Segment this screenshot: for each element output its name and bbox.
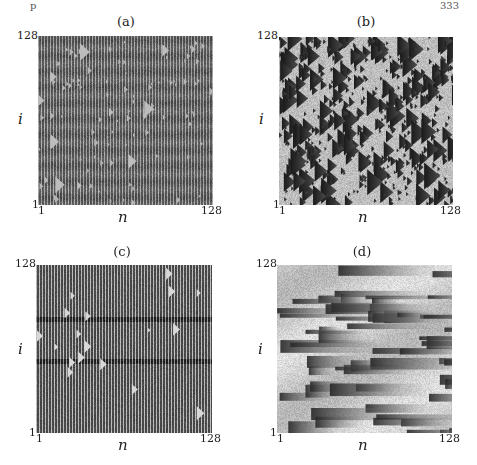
panel-a-ylabel: i bbox=[18, 110, 23, 128]
panel-c-ylabel: i bbox=[18, 340, 23, 358]
panel-c-xtick-left: 1 bbox=[36, 432, 43, 445]
panel-a-xtick-right: 128 bbox=[201, 204, 222, 217]
page-header-left: p bbox=[30, 0, 36, 11]
panel-b-heatmap bbox=[279, 37, 453, 205]
panel-d-xtick-left: 1 bbox=[277, 432, 284, 445]
panel-d-heatmap bbox=[277, 265, 452, 433]
panel-b-xtick-right: 128 bbox=[440, 204, 461, 217]
panel-b-ylabel: i bbox=[259, 110, 264, 128]
panel-a-ytick-top: 128 bbox=[17, 29, 38, 42]
panel-b-xtick-left: 1 bbox=[279, 204, 286, 217]
panel-c-title: (c) bbox=[102, 244, 142, 259]
panel-b-title: (b) bbox=[346, 14, 386, 29]
panel-c-ytick-bottom: 1 bbox=[29, 426, 36, 439]
panel-d-xlabel: n bbox=[358, 436, 368, 454]
panel-d-ytick-bottom: 1 bbox=[270, 426, 277, 439]
panel-a-xtick-left: 1 bbox=[38, 204, 45, 217]
panel-c-heatmap bbox=[36, 265, 212, 433]
panel-d-title: (d) bbox=[342, 244, 382, 259]
panel-a-xlabel: n bbox=[118, 208, 128, 226]
panel-b-ytick-top: 128 bbox=[257, 29, 278, 42]
panel-d-ytick-top: 128 bbox=[256, 257, 277, 270]
panel-d-xtick-right: 128 bbox=[439, 432, 460, 445]
panel-a-title: (a) bbox=[106, 14, 146, 29]
panel-b-xlabel: n bbox=[358, 208, 368, 226]
panel-d-ylabel: i bbox=[258, 340, 263, 358]
panel-a-heatmap bbox=[38, 36, 213, 205]
panel-c-xtick-right: 128 bbox=[200, 432, 221, 445]
panel-c-xlabel: n bbox=[118, 436, 128, 454]
panel-c-ytick-top: 128 bbox=[15, 257, 36, 270]
page-number: 333 bbox=[440, 0, 459, 11]
